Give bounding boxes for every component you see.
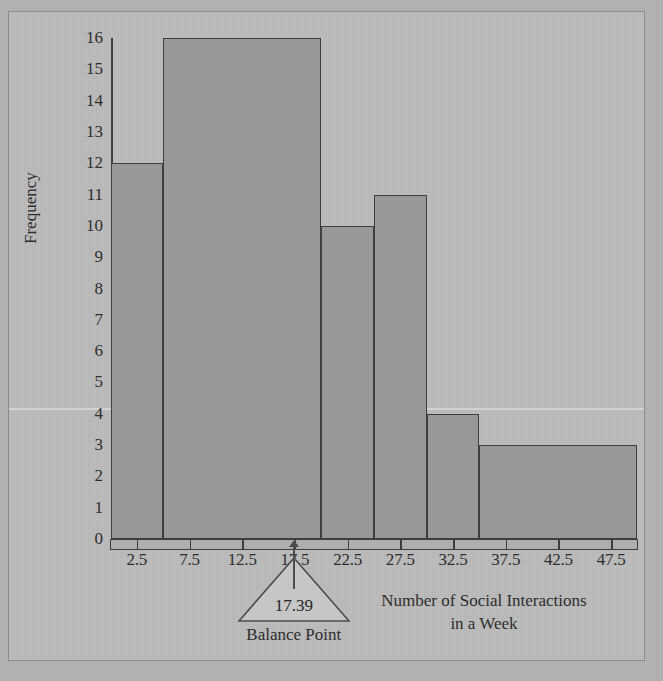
balance-pointer-line bbox=[293, 545, 295, 589]
balance-point-marker: 17.39 Balance Point bbox=[9, 12, 645, 661]
balance-point-caption: Balance Point bbox=[218, 625, 370, 645]
scan-bottom-artifact bbox=[20, 664, 620, 676]
figure-frame: 012345678910111213141516 Frequency 2.57.… bbox=[8, 11, 645, 661]
balance-point-value: 17.39 bbox=[238, 596, 350, 616]
